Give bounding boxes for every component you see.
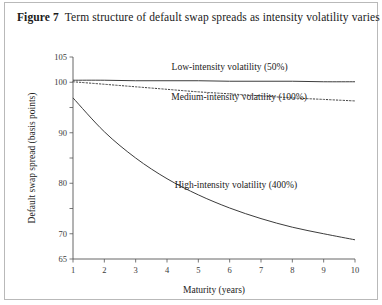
x-axis-tick-label: 1 xyxy=(71,265,75,275)
chart-series-group xyxy=(73,80,355,240)
x-axis-tick-label: 10 xyxy=(351,265,360,275)
y-axis: 65708090100105 xyxy=(54,52,73,264)
series-line-low-intensity xyxy=(73,80,355,82)
y-axis-tick-label: 100 xyxy=(54,77,67,87)
figure-caption-text: Term structure of default swap spreads a… xyxy=(65,11,380,23)
x-axis-tick-label: 6 xyxy=(228,265,232,275)
y-axis-tick-label: 70 xyxy=(59,229,68,239)
y-axis-tick-label: 65 xyxy=(59,254,68,264)
figure-number: Figure 7 xyxy=(17,11,59,23)
series-annotation-label: Medium-intensity volatility (100%) xyxy=(171,92,307,103)
figure-caption: Figure 7Term structure of default swap s… xyxy=(17,11,380,23)
y-axis-tick-label: 80 xyxy=(59,178,68,188)
x-axis-tick-label: 5 xyxy=(196,265,200,275)
x-axis-tick-label: 9 xyxy=(322,265,326,275)
series-annotation-label: High-intensity volatility (400%) xyxy=(175,180,297,191)
chart-plot-area: 65708090100105 12345678910 Low-intensity… xyxy=(5,37,377,299)
x-axis-tick-label: 8 xyxy=(290,265,294,275)
series-annotation-label: Low-intensity volatility (50%) xyxy=(172,62,288,73)
x-axis-tick-label: 7 xyxy=(259,265,263,275)
x-axis-tick-label: 4 xyxy=(165,265,170,275)
y-axis-tick-label: 105 xyxy=(54,52,67,62)
y-axis-tick-label: 90 xyxy=(59,128,68,138)
x-axis: 12345678910 xyxy=(71,259,359,275)
figure-frame: Figure 7Term structure of default swap s… xyxy=(4,2,378,300)
x-axis-title: Maturity (years) xyxy=(183,285,245,296)
x-axis-tick-label: 2 xyxy=(102,265,106,275)
y-axis-title: Default swap spread (basis points) xyxy=(27,93,38,224)
series-line-high-intensity xyxy=(73,98,355,240)
x-axis-tick-label: 3 xyxy=(134,265,138,275)
